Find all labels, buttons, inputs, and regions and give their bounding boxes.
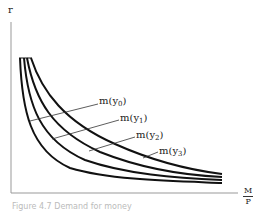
figure-caption: Figure 4.7 Demand for money [12,202,132,211]
label-m-y3: m(y3) [159,146,186,158]
label-m-y2: m(y2) [136,130,163,142]
x-axis-denominator: P [243,197,253,206]
label-m-y0: m(y0) [99,96,126,108]
label-m-y1: m(y1) [120,113,147,125]
label-subscript: 1 [139,117,143,125]
x-axis-numerator: M [243,187,253,197]
diagram-canvas [0,0,270,211]
x-axis-label: M P [243,187,253,206]
label-text: m(y [120,112,139,123]
leader-m-y0 [30,104,98,121]
label-text: m(y [159,145,178,156]
label-subscript: 3 [178,150,182,158]
label-text: m(y [99,95,118,106]
y-axis-label: r [8,5,13,15]
label-text: m(y [136,129,155,140]
leader-m-y1 [52,120,119,139]
label-subscript: 2 [155,134,159,142]
label-subscript: 0 [118,100,122,108]
